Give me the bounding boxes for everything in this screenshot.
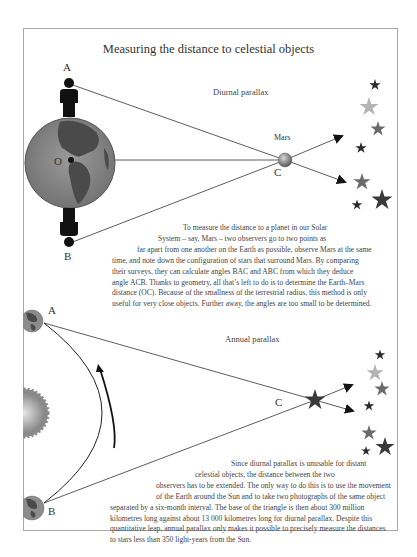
earth-center-dot: [68, 157, 74, 163]
star-icon: [352, 200, 362, 210]
earth-orbit-arc: [44, 323, 102, 503]
point-c-label: C: [274, 166, 281, 178]
star-icon: [364, 401, 374, 411]
star-icon: [372, 189, 393, 209]
earth-position-b-icon: [20, 496, 44, 520]
star-icon: [353, 173, 370, 189]
star-icon: [361, 446, 371, 455]
earth-globe-icon: [25, 118, 115, 208]
diurnal-description: To measure the distance to a planet in o…: [112, 223, 374, 310]
star-icon: [366, 364, 383, 380]
earth-position-a-icon: [21, 310, 43, 332]
target-star-c-icon: [305, 389, 326, 409]
star-icon: [370, 121, 385, 135]
earth-a-label: A: [48, 304, 56, 316]
annual-parallax-heading: Annual parallax: [225, 334, 280, 344]
star-icon: [374, 381, 389, 395]
diagram-title: Measuring the distance to celestial obje…: [0, 42, 417, 57]
diurnal-parallax-diagram: [25, 78, 392, 247]
diurnal-parallax-heading: Diurnal parallax: [213, 87, 268, 97]
earth-b-label: B: [48, 505, 55, 517]
star-icon: [361, 425, 376, 439]
annual-description: Since diurnal parallax is unusable for d…: [110, 459, 396, 546]
star-icon: [375, 437, 394, 455]
mars-planet-icon: [278, 153, 292, 167]
observer-a-icon: [60, 78, 78, 117]
arrow-up-icon: [285, 136, 342, 160]
sun-icon: [0, 389, 48, 437]
point-o-label: O: [54, 155, 62, 167]
arrow-down-icon: [315, 400, 353, 411]
star-c-label: C: [275, 396, 282, 408]
point-b-label: B: [64, 250, 71, 262]
mars-label: Mars: [274, 133, 290, 142]
background-stars-diurnal: [352, 79, 393, 209]
star-icon: [375, 350, 385, 360]
star-icon: [359, 97, 378, 115]
star-icon: [355, 142, 366, 153]
background-stars-annual: [361, 350, 394, 456]
arrow-down-icon: [285, 160, 345, 182]
point-a-label: A: [63, 61, 71, 73]
orbit-arrowhead-icon: [96, 364, 104, 372]
star-icon: [369, 79, 380, 90]
